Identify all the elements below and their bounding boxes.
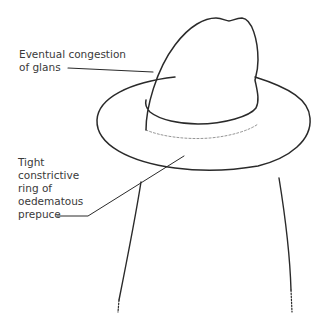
- label-line: ring of: [18, 182, 83, 195]
- shaft-left-outline: [119, 182, 141, 300]
- label-line: constrictive: [18, 169, 83, 182]
- label-line: Tight: [18, 156, 83, 169]
- diagram-canvas: Eventual congestion of glans Tight const…: [0, 0, 324, 324]
- glans-label: Eventual congestion of glans: [19, 48, 126, 74]
- glans-outline: [146, 18, 258, 130]
- label-line: prepuce: [18, 208, 83, 221]
- ring-inner-edge: [146, 124, 258, 139]
- label-line: oedematous: [18, 195, 83, 208]
- label-line: Eventual congestion: [19, 48, 126, 61]
- label-line: of glans: [19, 61, 126, 74]
- prepuce-label: Tight constrictive ring of oedematous pr…: [18, 156, 83, 221]
- shaft-right-outline: [279, 178, 291, 290]
